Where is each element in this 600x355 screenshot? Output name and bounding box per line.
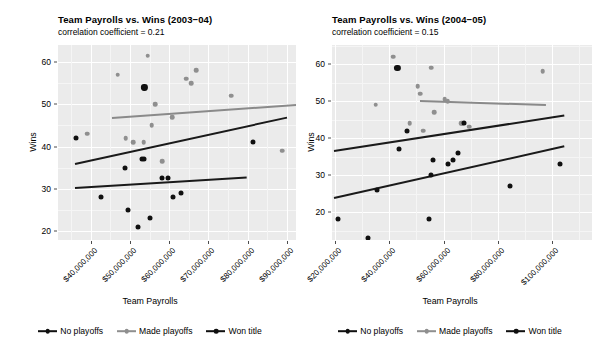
- legend-item-made-playoffs[interactable]: Made playoffs: [117, 326, 192, 336]
- legend-label: No playoffs: [360, 326, 403, 336]
- data-point: [160, 159, 165, 164]
- data-point: [147, 216, 152, 221]
- legend-item-no-playoffs[interactable]: No playoffs: [38, 326, 103, 336]
- gridline-x-minor: [110, 45, 111, 240]
- plot-panel: [332, 45, 592, 240]
- data-point: [429, 173, 434, 178]
- y-axis-tick-mark: [328, 175, 331, 176]
- chart-title: Team Payrolls vs. Wins (2004−05): [332, 14, 486, 25]
- chart-subtitle: correlation coefficient = 0.21: [58, 27, 164, 37]
- legend-item-won-title[interactable]: Won title: [506, 326, 561, 336]
- chart-figure: Team Payrolls vs. Wins (2003−04)correlat…: [0, 0, 600, 355]
- x-axis-title: Team Payrolls: [0, 296, 300, 306]
- data-point: [159, 176, 164, 181]
- legend: No playoffsMade playoffsWon title: [300, 326, 600, 336]
- legend-item-made-playoffs[interactable]: Made playoffs: [417, 326, 492, 336]
- x-axis-tick-label: $100,000,000: [510, 246, 560, 296]
- data-point: [432, 110, 437, 115]
- x-axis-tick-mark: [335, 241, 336, 244]
- plot-panel: [58, 45, 296, 240]
- gridline-y: [58, 231, 296, 232]
- data-point: [126, 207, 131, 212]
- data-point: [456, 150, 461, 155]
- y-axis-tick-mark: [54, 146, 57, 147]
- data-point: [165, 176, 170, 181]
- legend-key-icon: [117, 327, 136, 336]
- data-point: [540, 69, 545, 74]
- gridline-x-minor: [362, 45, 363, 240]
- data-point: [445, 161, 450, 166]
- data-point: [365, 235, 370, 240]
- x-axis-tick-mark: [444, 241, 445, 244]
- data-point: [194, 68, 199, 73]
- data-point: [396, 147, 401, 152]
- data-point: [98, 195, 103, 200]
- gridline-y: [58, 189, 296, 190]
- legend-key-icon: [338, 327, 357, 336]
- gridline-x-minor: [525, 45, 526, 240]
- gridline-x: [248, 45, 249, 240]
- gridline-y-minor: [58, 168, 296, 169]
- y-axis-tick-mark: [54, 188, 57, 189]
- data-point: [85, 132, 90, 137]
- y-axis-tick-label: 60: [308, 59, 325, 69]
- y-axis-tick-label: 50: [34, 99, 51, 109]
- data-point: [171, 195, 176, 200]
- y-axis-tick-mark: [328, 101, 331, 102]
- legend-key-icon: [206, 327, 225, 336]
- legend-item-no-playoffs[interactable]: No playoffs: [338, 326, 403, 336]
- gridline-y: [58, 104, 296, 105]
- gridline-y-minor: [58, 83, 296, 84]
- gridline-x-minor: [189, 45, 190, 240]
- data-point: [407, 121, 412, 126]
- gridline-x-minor: [150, 45, 151, 240]
- gridline-x-minor: [267, 45, 268, 240]
- data-point: [73, 136, 78, 141]
- legend-label: No playoffs: [60, 326, 103, 336]
- y-axis-tick-mark: [54, 62, 57, 63]
- data-point: [421, 128, 426, 133]
- data-point: [153, 102, 158, 107]
- data-point: [184, 77, 189, 82]
- data-point: [178, 190, 183, 195]
- x-axis-tick-mark: [498, 241, 499, 244]
- data-point: [229, 94, 234, 99]
- x-axis-tick-mark: [389, 241, 390, 244]
- gridline-x: [444, 45, 445, 240]
- data-point: [507, 184, 512, 189]
- data-point: [135, 224, 140, 229]
- data-point: [373, 102, 378, 107]
- x-axis-tick-mark: [552, 241, 553, 244]
- data-point: [467, 125, 472, 130]
- legend-label: Won title: [228, 326, 261, 336]
- data-point: [445, 99, 450, 104]
- y-axis-tick-label: 60: [34, 57, 51, 67]
- trend-line-made-playoffs: [112, 103, 296, 118]
- gridline-x-minor: [416, 45, 417, 240]
- x-axis-tick-mark: [248, 241, 249, 244]
- x-axis-tick-mark: [130, 241, 131, 244]
- gridline-y: [58, 147, 296, 148]
- y-axis-tick-label: 30: [308, 170, 325, 180]
- gridline-x-minor: [228, 45, 229, 240]
- data-point: [141, 84, 147, 90]
- facet-panel-1: Team Payrolls vs. Wins (2003−04)correlat…: [0, 0, 300, 355]
- x-axis-tick-mark: [287, 241, 288, 244]
- y-axis-tick-mark: [328, 138, 331, 139]
- data-point: [415, 84, 420, 89]
- gridline-x: [208, 45, 209, 240]
- trend-line-won-title: [333, 115, 564, 152]
- data-point: [394, 65, 400, 71]
- gridline-y-minor: [58, 125, 296, 126]
- data-point: [122, 165, 127, 170]
- y-axis-tick-label: 50: [308, 96, 325, 106]
- legend-key-icon: [38, 327, 57, 336]
- x-axis-tick-label: $80,000,000: [456, 246, 506, 296]
- legend-item-won-title[interactable]: Won title: [206, 326, 261, 336]
- data-point: [280, 148, 285, 153]
- y-axis-tick-label: 20: [308, 207, 325, 217]
- legend-label: Won title: [528, 326, 561, 336]
- x-axis-tick-label: $20,000,000: [293, 246, 343, 296]
- gridline-x: [91, 45, 92, 240]
- chart-title: Team Payrolls vs. Wins (2003−04): [58, 14, 212, 25]
